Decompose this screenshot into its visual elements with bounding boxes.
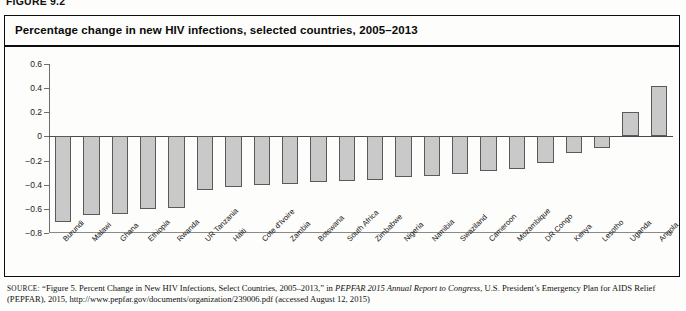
y-tick-label: −0.6 (25, 204, 42, 214)
figure-page: FIGURE 9.2 Percentage change in new HIV … (0, 0, 686, 311)
figure-number-label: FIGURE 9.2 (6, 0, 65, 7)
bar (452, 136, 468, 173)
bar (168, 136, 184, 207)
bar-series (49, 64, 673, 233)
bar (480, 136, 496, 171)
title-divider (5, 45, 679, 47)
y-tick-label: −0.2 (25, 156, 42, 166)
y-tick-label: 0.4 (30, 83, 42, 93)
source-prefix: SOURCE: (7, 284, 40, 293)
y-tick-label: 0.2 (30, 107, 42, 117)
bar (83, 136, 99, 214)
y-tick-label: −0.8 (25, 228, 42, 238)
bar (225, 136, 241, 187)
bar (622, 112, 638, 136)
source-note: SOURCE: “Figure 5. Percent Change in New… (7, 283, 681, 306)
bar (197, 136, 213, 189)
bar (424, 136, 440, 176)
bar (339, 136, 355, 181)
bar (254, 136, 270, 184)
bar (594, 136, 610, 148)
bar (367, 136, 383, 179)
source-publication-title: PEPFAR 2015 Annual Report to Congress (335, 283, 480, 293)
y-tick-label: −0.4 (25, 180, 42, 190)
y-tick-label: 0 (37, 131, 42, 141)
bar (140, 136, 156, 208)
plot-area: 0.60.40.20−0.2−0.4−0.6−0.8 BurundiMalawi… (49, 64, 673, 233)
figure-frame: Percentage change in new HIV infections,… (4, 15, 680, 277)
source-text-part1: “Figure 5. Percent Change in New HIV Inf… (42, 283, 335, 293)
y-tick-mark (44, 233, 49, 234)
bar (112, 136, 128, 213)
bar (651, 86, 667, 137)
bar (537, 136, 553, 163)
bar (509, 136, 525, 169)
bar (55, 136, 71, 222)
bar (282, 136, 298, 183)
y-tick-label: 0.6 (30, 59, 42, 69)
bar (566, 136, 582, 153)
chart-title: Percentage change in new HIV infections,… (15, 24, 418, 36)
bar (310, 136, 326, 182)
bar (395, 136, 411, 177)
